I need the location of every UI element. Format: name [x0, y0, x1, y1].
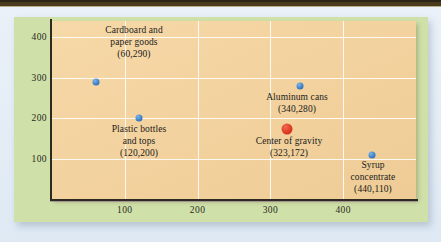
annotation-cardboard: Cardboard and paper goods (60,290) — [105, 24, 163, 61]
y-tick-label-300: 300 — [32, 73, 47, 83]
annotation-center-coords: (323,172) — [256, 147, 323, 159]
data-point-center-of-gravity[interactable] — [282, 124, 293, 135]
annotation-center-line1: Center of gravity — [256, 135, 323, 147]
figure-page: 400 300 200 100 100 200 300 400 Cardboar… — [0, 0, 441, 242]
gridline-y-200 — [52, 118, 416, 119]
x-tick-label-400: 400 — [335, 205, 350, 215]
data-point-plastic[interactable] — [136, 115, 143, 122]
annotation-center-of-gravity: Center of gravity (323,172) — [256, 135, 323, 159]
annotation-cardboard-line1: Cardboard and — [105, 24, 163, 36]
annotation-syrup-coords: (440,110) — [351, 183, 396, 195]
x-tick-label-300: 300 — [263, 205, 278, 215]
scatter-chart: 400 300 200 100 100 200 300 400 Cardboar… — [52, 21, 416, 199]
annotation-plastic: Plastic bottles and tops (120,200) — [112, 123, 167, 160]
page-top-border-inner — [0, 0, 441, 2]
data-point-aluminum[interactable] — [296, 82, 303, 89]
gridline-x-200 — [198, 21, 199, 199]
gridline-y-300 — [52, 78, 416, 79]
y-tick-label-100: 100 — [32, 154, 47, 164]
annotation-plastic-coords: (120,200) — [112, 147, 167, 159]
annotation-syrup: Syrup concentrate (440,110) — [351, 159, 396, 196]
annotation-syrup-line2: concentrate — [351, 171, 396, 183]
annotation-cardboard-coords: (60,290) — [105, 48, 163, 60]
x-tick-label-200: 200 — [190, 205, 205, 215]
annotation-plastic-line2: and tops — [112, 135, 167, 147]
annotation-cardboard-line2: paper goods — [105, 36, 163, 48]
y-tick-label-200: 200 — [32, 113, 47, 123]
annotation-aluminum-coords: (340,280) — [266, 103, 328, 115]
data-point-syrup[interactable] — [369, 151, 376, 158]
x-tick-label-100: 100 — [117, 205, 132, 215]
annotation-aluminum: Aluminum cans (340,280) — [266, 91, 328, 115]
page-top-border — [0, 0, 441, 7]
annotation-aluminum-line1: Aluminum cans — [266, 91, 328, 103]
annotation-syrup-line1: Syrup — [351, 159, 396, 171]
x-axis-line-highlight — [50, 201, 418, 202]
gridline-x-400 — [343, 21, 344, 199]
y-tick-label-400: 400 — [32, 32, 47, 42]
y-axis-line — [50, 19, 52, 201]
annotation-plastic-line1: Plastic bottles — [112, 123, 167, 135]
data-point-cardboard[interactable] — [92, 78, 99, 85]
